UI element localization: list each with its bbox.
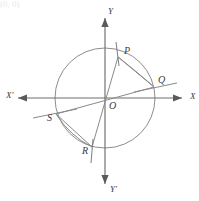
axis-label-y-positive: Y bbox=[108, 6, 114, 16]
axis-label-y-negative: Y' bbox=[110, 184, 118, 194]
tangent-at-Q bbox=[134, 83, 177, 92]
chord-RS bbox=[56, 114, 92, 147]
point-label-R: R bbox=[81, 145, 88, 156]
tangent-at-S bbox=[33, 109, 77, 118]
geometry-figure: (0, 0) P Q R S O X' X Y bbox=[0, 0, 199, 201]
point-label-P: P bbox=[123, 45, 130, 56]
figure-canvas: P Q R S O X' X Y Y' bbox=[0, 0, 199, 201]
arc-PQ bbox=[118, 57, 154, 87]
point-label-Q: Q bbox=[158, 74, 166, 85]
tick-at-R bbox=[91, 139, 93, 163]
point-label-S: S bbox=[47, 112, 52, 123]
axis-label-x-negative: X' bbox=[5, 90, 14, 100]
y-axis-positive-arrowhead bbox=[101, 18, 108, 27]
x-axis-positive-arrowhead bbox=[173, 94, 182, 101]
y-axis-negative-arrowhead bbox=[101, 175, 108, 184]
axis-label-x-positive: X bbox=[189, 91, 196, 101]
x-axis-negative-arrowhead bbox=[18, 94, 27, 101]
origin-label-O: O bbox=[109, 100, 116, 111]
